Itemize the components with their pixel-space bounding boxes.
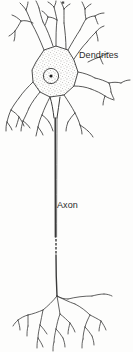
soma-cell-body — [32, 46, 78, 97]
label-dendrites: Dendrites — [79, 51, 118, 60]
axon — [50, 97, 60, 237]
axon-lower-segment — [56, 255, 57, 296]
neuron-diagram-figure: Dendrites Axon — [0, 0, 133, 352]
label-axon: Axon — [57, 201, 78, 210]
nucleolus — [49, 74, 52, 77]
top-speck-mark — [62, 2, 64, 4]
axon-terminal-arborization — [13, 294, 112, 351]
